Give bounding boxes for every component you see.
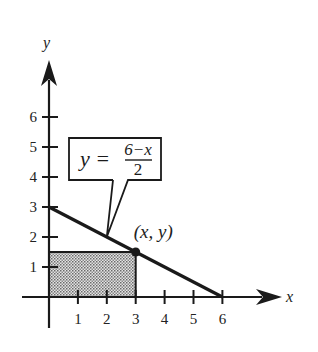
- x-tick-label: 4: [161, 311, 169, 327]
- diagram: 123456 123456 x y y = 6−x 2 (x, y): [0, 0, 318, 352]
- shaded-rectangle: [49, 252, 136, 297]
- x-tick-label: 2: [103, 311, 111, 327]
- equation-numerator: 6−x: [124, 140, 152, 159]
- equation-lhs: y =: [78, 146, 110, 171]
- y-tick-label: 5: [30, 139, 38, 155]
- x-tick-label: 5: [190, 311, 198, 327]
- y-tick-label: 4: [30, 169, 38, 185]
- y-tick-label: 2: [30, 229, 38, 245]
- x-tick-label: 3: [132, 311, 140, 327]
- y-tick-label: 1: [30, 259, 38, 275]
- point-label: (x, y): [134, 221, 173, 243]
- x-tick-label: 6: [219, 311, 227, 327]
- x-tick-label: 1: [74, 311, 82, 327]
- y-axis-label: y: [41, 34, 51, 52]
- x-axis-label: x: [285, 288, 293, 305]
- equation-denominator: 2: [134, 160, 143, 179]
- y-tick-label: 3: [30, 199, 38, 215]
- y-tick-label: 6: [30, 109, 38, 125]
- point-x-y: [131, 248, 140, 257]
